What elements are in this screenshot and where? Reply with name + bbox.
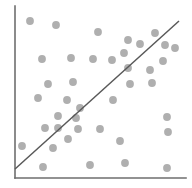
data-point: [116, 137, 124, 145]
data-point: [64, 135, 72, 143]
data-point: [39, 163, 47, 171]
data-point: [171, 44, 179, 52]
data-point: [38, 55, 46, 63]
data-point: [18, 142, 26, 150]
scatter-plot-figure: [0, 0, 192, 188]
data-point: [34, 94, 42, 102]
data-point: [136, 40, 144, 48]
data-point: [121, 159, 129, 167]
data-point: [120, 49, 128, 57]
data-point: [72, 114, 80, 122]
data-point: [146, 66, 154, 74]
data-point: [49, 144, 57, 152]
data-point: [126, 80, 134, 88]
data-point: [159, 57, 167, 65]
data-point: [161, 41, 169, 49]
data-point: [151, 29, 159, 37]
data-point: [89, 55, 97, 63]
plot-canvas: [0, 0, 192, 188]
data-point: [108, 56, 116, 64]
data-point: [96, 125, 104, 133]
data-point: [63, 96, 71, 104]
data-point: [69, 78, 77, 86]
data-point: [74, 125, 82, 133]
data-point: [44, 80, 52, 88]
data-point: [52, 21, 60, 29]
data-point: [163, 113, 171, 121]
data-point: [41, 124, 49, 132]
data-point: [67, 54, 75, 62]
data-point: [164, 128, 172, 136]
data-point: [163, 164, 171, 172]
data-point: [26, 17, 34, 25]
data-point: [124, 36, 132, 44]
data-point: [94, 28, 102, 36]
data-point: [148, 79, 156, 87]
data-point: [54, 112, 62, 120]
data-point: [109, 96, 117, 104]
data-point: [86, 161, 94, 169]
